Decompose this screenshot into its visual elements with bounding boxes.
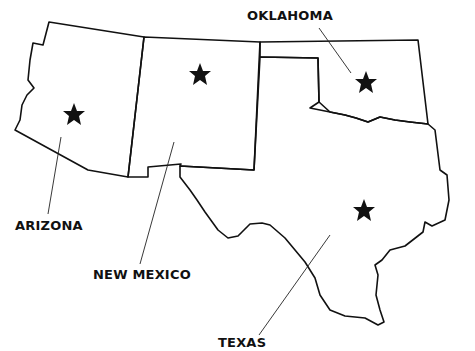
label-texas: TEXAS xyxy=(218,335,266,350)
label-arizona: ARIZONA xyxy=(15,218,83,233)
arizona-outline xyxy=(15,22,144,177)
new-mexico-capital-star-icon xyxy=(189,63,211,85)
texas-capital-star-icon xyxy=(353,199,375,221)
texas-outline xyxy=(180,57,449,325)
new-mexico-outline xyxy=(128,37,260,177)
map: ARIZONA NEW MEXICO OKLAHOMA TEXAS xyxy=(0,0,475,351)
label-oklahoma: OKLAHOMA xyxy=(247,8,333,23)
new-mexico-leader xyxy=(140,142,174,264)
label-new-mexico: NEW MEXICO xyxy=(93,267,191,282)
oklahoma-capital-star-icon xyxy=(355,71,377,93)
arizona-capital-star-icon xyxy=(63,103,85,125)
capital-stars xyxy=(63,63,377,221)
oklahoma-outline xyxy=(260,40,428,124)
state-borders xyxy=(0,0,475,351)
oklahoma-leader xyxy=(319,28,351,73)
